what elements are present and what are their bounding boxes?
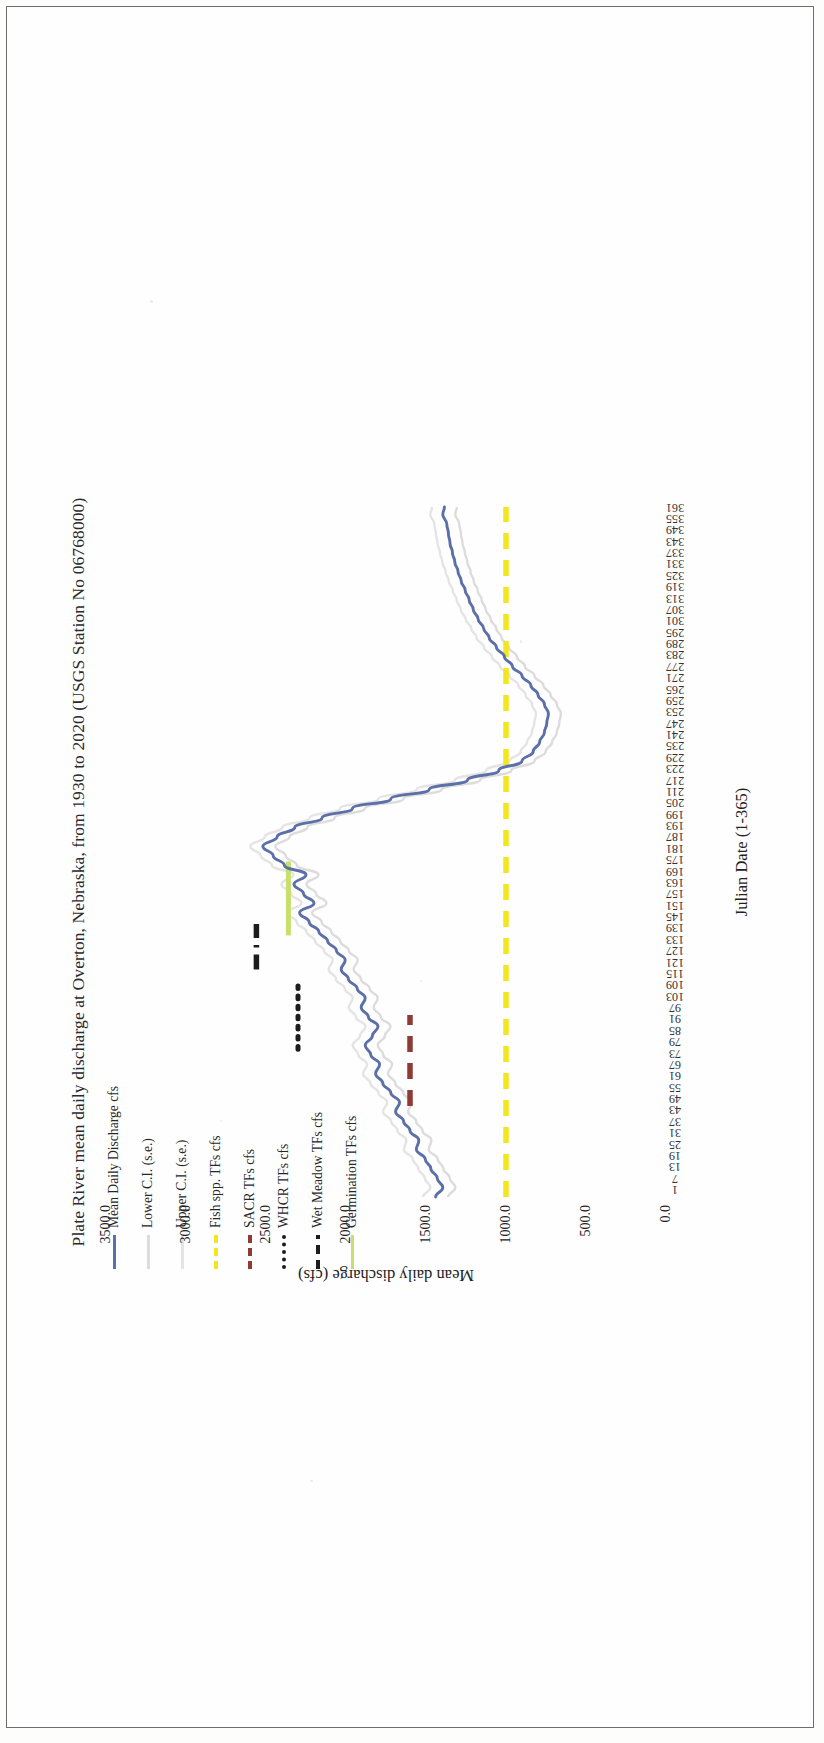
y-axis-title: Mean daily discharge (cfs): [298, 1265, 474, 1285]
legend-swatch-dash: [248, 1235, 252, 1269]
legend-swatch-dashdot: [316, 1235, 320, 1269]
plot-area: Mean daily discharge (cfs) Julian Date (…: [106, 507, 666, 1197]
y-axis-tick-label: 2500.0: [258, 1205, 274, 1244]
plot-svg: [106, 507, 666, 1197]
y-axis-tick-label: 3000.0: [178, 1205, 194, 1244]
upper-ci-line: [250, 507, 536, 1197]
legend-swatch-dot: [282, 1235, 286, 1269]
legend-swatch-dash: [214, 1235, 218, 1269]
chart-figure: Plate River mean daily discharge at Over…: [62, 451, 762, 1293]
chart-title: Plate River mean daily discharge at Over…: [68, 451, 89, 1293]
x-axis-title: Julian Date (1-365): [732, 787, 752, 915]
chart-legend: Mean Daily Discharge cfsLower C.I. (s.e.…: [106, 1268, 107, 1269]
y-axis-tick-label: 0.0: [658, 1205, 674, 1223]
y-axis-tick-label: 500.0: [578, 1205, 594, 1237]
y-axis-tick-label: 1000.0: [498, 1205, 514, 1244]
y-axis-tick-label: 3500.0: [98, 1205, 114, 1244]
mean-daily-discharge-line: [263, 507, 549, 1197]
lower-ci-line: [275, 507, 561, 1197]
scan-speck: [150, 300, 153, 303]
scan-speck: [310, 1480, 313, 1482]
scanned-page: Plate River mean daily discharge at Over…: [0, 0, 824, 1743]
legend-swatch-solid: [147, 1235, 150, 1269]
y-axis-tick-label: 1500.0: [418, 1205, 434, 1244]
rotated-figure: Plate River mean daily discharge at Over…: [62, 451, 762, 1293]
y-axis-tick-label: 2000.0: [338, 1205, 354, 1244]
x-axis-tick-label: 361: [666, 499, 684, 514]
